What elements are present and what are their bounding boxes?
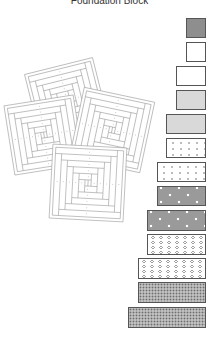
- fabric-strip-white: [186, 42, 206, 62]
- fabric-strip-light-dots: [157, 162, 206, 182]
- fabric-strip-light-gray: [166, 114, 206, 134]
- fabric-strip-light-gray: [176, 90, 206, 110]
- front-block: [49, 144, 127, 222]
- fabric-strip-white: [176, 66, 206, 86]
- fabric-strip-dark-gray: [186, 18, 206, 38]
- fabric-strip-white-dots-on-gray: [147, 210, 206, 231]
- fabric-strip-white-dots-on-gray: [157, 186, 206, 206]
- fabric-strip-checker: [138, 282, 206, 303]
- fabric-strip-light-dots: [166, 138, 206, 158]
- fabric-strip-rings: [147, 234, 206, 255]
- fabric-strip-rings: [138, 258, 206, 279]
- fabric-strip-checker: [128, 307, 206, 328]
